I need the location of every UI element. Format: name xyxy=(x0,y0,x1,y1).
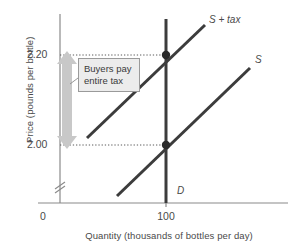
equilibrium-marker-no-tax xyxy=(162,141,170,149)
x-tick-label-0: 0 xyxy=(40,211,46,222)
y-tick-label-220: 2.20 xyxy=(27,49,47,60)
x-axis-title: Quantity (thousands of bottles per day) xyxy=(46,231,292,241)
curve-label-demand: D xyxy=(177,186,184,196)
annotation-box-buyers-pay-entire-tax: Buyers pay entire tax xyxy=(78,58,140,92)
supply-demand-tax-chart: Price (pounds per bottle) Quantity (thou… xyxy=(0,0,292,250)
curve-label-supply-plus-tax: S + tax xyxy=(209,15,240,25)
annotation-line-1: Buyers pay xyxy=(84,63,134,75)
annotation-line-2: entire tax xyxy=(84,75,134,87)
x-tick-label-100: 100 xyxy=(152,211,180,222)
y-tick-label-200: 2.00 xyxy=(27,139,47,150)
curve-label-supply: S xyxy=(255,55,262,65)
equilibrium-marker-with-tax xyxy=(162,51,170,59)
